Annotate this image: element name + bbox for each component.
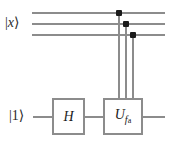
control-dot-3 xyxy=(130,32,136,38)
control-dot-1 xyxy=(116,10,122,16)
wire-x-2 xyxy=(32,34,165,36)
ket-symbol-one: 1 xyxy=(12,108,19,123)
gate-hadamard[interactable]: H xyxy=(52,98,85,135)
ket-label-one: |1⟩ xyxy=(9,109,24,123)
gate-oracle-subsubscript: a xyxy=(128,116,132,125)
gate-oracle-label: Ufa xyxy=(115,108,132,125)
wire-ancilla-segment-right xyxy=(142,116,165,118)
gate-hadamard-label: H xyxy=(63,110,73,124)
gate-oracle-symbol: U xyxy=(115,107,125,122)
quantum-circuit-diagram: |x⟩ |1⟩ H Ufa xyxy=(0,0,171,146)
ket-one-right-angle: ⟩ xyxy=(19,108,24,123)
ket-label-x: |x⟩ xyxy=(5,16,20,30)
wire-x-1 xyxy=(32,23,165,25)
gate-hadamard-symbol: H xyxy=(63,109,73,124)
wire-x-0 xyxy=(32,12,165,14)
wire-ancilla-segment-middle xyxy=(84,116,104,118)
ket-right-angle: ⟩ xyxy=(14,15,19,30)
control-line-2 xyxy=(125,23,127,100)
control-line-1 xyxy=(118,12,120,100)
gate-oracle[interactable]: Ufa xyxy=(103,98,143,135)
wire-ancilla-segment-left xyxy=(33,116,53,118)
control-line-3 xyxy=(132,34,134,100)
control-dot-2 xyxy=(123,21,129,27)
